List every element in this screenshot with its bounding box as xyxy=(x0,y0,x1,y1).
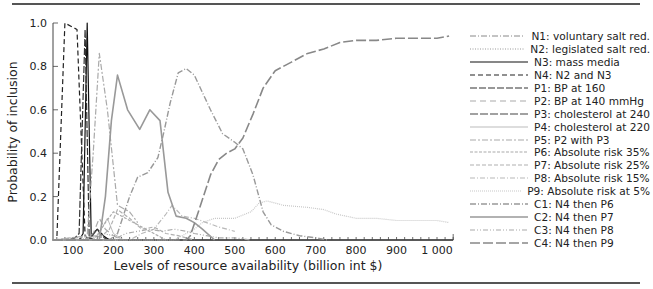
y-tick-label: 0.2 xyxy=(30,191,48,204)
legend-swatch xyxy=(470,239,528,247)
legend-label: C3: N4 then P8 xyxy=(534,224,614,236)
legend-item: P3: cholesterol at 240 xyxy=(470,107,650,120)
y-axis-title: Probability of inclusion xyxy=(5,61,20,202)
legend-swatch xyxy=(470,161,528,169)
series-line-c1 xyxy=(53,69,328,240)
legend-swatch xyxy=(470,123,528,131)
series-line-p7 xyxy=(53,210,195,240)
legend-swatch xyxy=(470,213,528,221)
legend-label: P9: Absolute risk at 5% xyxy=(527,185,650,197)
legend-label: C2: N4 then P7 xyxy=(534,211,614,223)
legend-label: N4: N2 and N3 xyxy=(534,69,612,81)
legend-item: C4: N4 then P9 xyxy=(470,236,650,249)
legend-label: P7: Absolute risk 25% xyxy=(534,159,650,171)
series-line-p6 xyxy=(53,212,166,240)
legend-item: N1: voluntary salt red. xyxy=(470,30,650,43)
legend-item: P9: Absolute risk at 5% xyxy=(470,185,650,198)
legend-swatch xyxy=(470,110,528,118)
legend-label: P1: BP at 160 xyxy=(534,82,605,94)
y-tick-label: 0.8 xyxy=(30,60,48,73)
x-tick-label: 400 xyxy=(184,244,205,257)
legend-label: N1: voluntary salt red. xyxy=(531,30,650,42)
y-tick-label: 0.4 xyxy=(30,147,48,160)
series-layer xyxy=(53,23,449,240)
legend-swatch xyxy=(470,45,524,53)
legend-swatch xyxy=(470,32,525,40)
y-tick-label: 0.6 xyxy=(30,104,48,117)
x-tick-label: 200 xyxy=(103,244,124,257)
legend-label: P2: BP at 140 mmHg xyxy=(534,95,644,107)
legend-swatch xyxy=(470,226,528,234)
legend-swatch xyxy=(470,148,528,156)
series-line-p9 xyxy=(53,201,449,240)
legend-item: C2: N4 then P7 xyxy=(470,210,650,223)
x-tick-label: 100 xyxy=(63,244,84,257)
legend-label: P8: Absolute risk 15% xyxy=(534,172,650,184)
legend: N1: voluntary salt red.N2: legislated sa… xyxy=(470,30,650,249)
legend-swatch xyxy=(470,97,528,105)
legend-swatch xyxy=(470,174,528,182)
legend-swatch xyxy=(470,71,528,79)
legend-item: P7: Absolute risk 25% xyxy=(470,159,650,172)
legend-item: N2: legislated salt red. xyxy=(470,43,650,56)
x-tick-label: 700 xyxy=(305,244,326,257)
legend-label: C1: N4 then P6 xyxy=(534,198,614,210)
legend-swatch xyxy=(470,136,528,144)
legend-item: C1: N4 then P6 xyxy=(470,198,650,211)
legend-label: N3: mass media xyxy=(534,56,620,68)
y-tick-label: 1.0 xyxy=(30,17,48,30)
legend-item: P4: cholesterol at 220 xyxy=(470,120,650,133)
legend-item: P8: Absolute risk 15% xyxy=(470,172,650,185)
legend-swatch xyxy=(470,58,528,66)
legend-swatch xyxy=(470,84,528,92)
x-tick-label: 500 xyxy=(224,244,245,257)
legend-swatch xyxy=(470,200,528,208)
x-tick-label: 800 xyxy=(346,244,367,257)
legend-item: N3: mass media xyxy=(470,56,650,69)
legend-swatch xyxy=(470,187,521,195)
legend-label: P3: cholesterol at 240 xyxy=(534,108,650,120)
legend-label: N2: legislated salt red. xyxy=(530,43,650,55)
series-line-c4 xyxy=(53,36,449,240)
legend-item: P5: P2 with P3 xyxy=(470,133,650,146)
legend-item: N4: N2 and N3 xyxy=(470,69,650,82)
series-line-c2 xyxy=(53,75,215,240)
legend-item: P2: BP at 140 mmHg xyxy=(470,94,650,107)
legend-label: P4: cholesterol at 220 xyxy=(534,121,650,133)
legend-item: C3: N4 then P8 xyxy=(470,223,650,236)
axes: 1002003004005006007008009001 0000.00.20.… xyxy=(30,17,454,257)
legend-item: P1: BP at 160 xyxy=(470,82,650,95)
legend-label: P5: P2 with P3 xyxy=(534,134,610,146)
x-tick-label: 600 xyxy=(265,244,286,257)
x-tick-label: 300 xyxy=(143,244,164,257)
legend-item: P6: Absolute risk 35% xyxy=(470,146,650,159)
legend-label: C4: N4 then P9 xyxy=(534,237,614,249)
x-tick-label: 900 xyxy=(386,244,407,257)
legend-label: P6: Absolute risk 35% xyxy=(534,146,650,158)
x-axis-title: Levels of resource availability (billion… xyxy=(114,258,383,273)
y-tick-label: 0.0 xyxy=(30,234,48,247)
x-tick-label: 1 000 xyxy=(421,244,453,257)
